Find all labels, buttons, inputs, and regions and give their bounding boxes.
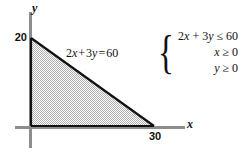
left-curly-brace: { xyxy=(158,34,174,72)
y-axis-label: y xyxy=(32,2,37,14)
x-axis-label: x xyxy=(187,118,193,130)
equation-equals-sign: = xyxy=(97,46,106,60)
inequality-constraint-3: y ≥ 0 xyxy=(178,62,238,75)
y-intercept-tick-label: 20 xyxy=(8,32,27,43)
feasible-region-figure: y x 20 30 2x+3y=60 { 2x + 3y ≤ 60 x ≥ 0 … xyxy=(0,0,242,160)
inequality-constraint-2: x ≥ 0 xyxy=(178,46,238,59)
equation-plus-sign: + xyxy=(77,46,86,60)
equation-rhs-value: 60 xyxy=(106,46,118,60)
system-of-inequalities: { 2x + 3y ≤ 60 x ≥ 0 y ≥ 0 xyxy=(155,30,238,75)
feasible-region-shape xyxy=(0,0,242,160)
x-intercept-tick-label: 30 xyxy=(140,131,170,142)
boundary-line-equation: 2x+3y=60 xyxy=(66,47,118,59)
inequality-constraint-1: 2x + 3y ≤ 60 xyxy=(178,30,238,43)
inequality-list: 2x + 3y ≤ 60 x ≥ 0 y ≥ 0 xyxy=(178,30,238,75)
